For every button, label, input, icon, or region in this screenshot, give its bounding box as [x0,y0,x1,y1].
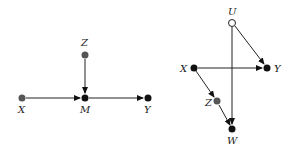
node-m [82,95,89,102]
edge-z-w [219,105,230,125]
causal-diagrams: X Z M Y U X Y Z W [0,0,297,155]
right-graph: U X Y Z W [179,6,282,146]
label-z: Z [80,37,89,48]
edge-x-z [196,71,214,97]
left-graph: X Z M Y [17,37,152,115]
label-x: X [179,63,188,74]
label-z: Z [204,97,213,108]
node-w [229,126,236,133]
node-x [191,65,198,72]
node-y [264,65,271,72]
node-u [229,20,236,27]
edge-u-y [235,26,264,64]
node-z [214,98,221,105]
label-m: M [79,104,91,115]
node-x [19,95,26,102]
node-y [145,95,152,102]
label-x: X [17,104,26,115]
label-w: W [227,135,238,146]
label-y: Y [144,104,152,115]
label-y: Y [274,63,282,74]
label-u: U [228,6,237,17]
node-z [82,52,89,59]
